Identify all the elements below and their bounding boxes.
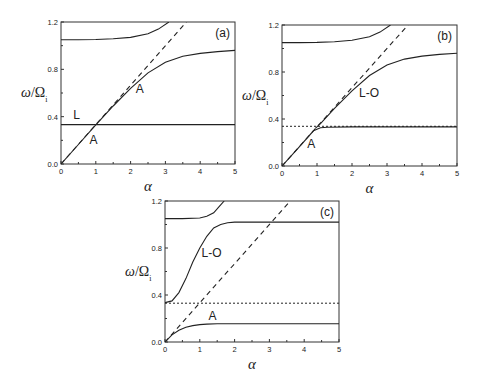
x-tick-label: 1 — [198, 345, 202, 354]
series-l-o — [165, 222, 339, 303]
y-tick-label: 1.2 — [48, 18, 58, 27]
x-axis-label: α — [144, 178, 153, 194]
panel-tag: (a) — [215, 26, 230, 40]
y-axis-label: ω/Ωi — [242, 88, 269, 107]
x-tick-label: 4 — [198, 167, 202, 176]
series-upper-branch — [165, 201, 224, 219]
panel-a: 0123450.00.40.81.2(a)LAAαω/Ωi — [21, 18, 237, 194]
plot-frame — [61, 22, 235, 164]
y-tick-label: 1.2 — [152, 197, 162, 206]
panel-b: 0123450.00.40.81.2(b)L-OAαω/Ωi — [242, 21, 459, 196]
series-l-o — [315, 53, 457, 128]
y-tick-label: 0.8 — [269, 68, 279, 77]
x-tick-label: 1 — [315, 169, 319, 178]
series-light-line — [282, 25, 408, 166]
x-tick-label: 4 — [420, 169, 424, 178]
x-tick-label: 4 — [302, 345, 306, 354]
y-tick-label: 0.8 — [152, 244, 162, 253]
curve-label: A — [209, 309, 217, 323]
y-tick-label: 0.4 — [48, 113, 58, 122]
curve-label: A — [90, 133, 98, 147]
panel-c: 0123450.00.40.81.2(c)L-OAαω/Ωi — [125, 197, 341, 372]
curve-label: A — [136, 82, 144, 96]
y-tick-label: 0.8 — [48, 65, 58, 74]
x-tick-label: 5 — [455, 169, 459, 178]
series-light-line — [61, 22, 186, 164]
series-upper-branch — [282, 25, 391, 43]
series-upper-branch — [61, 22, 169, 40]
y-tick-label: 0.0 — [269, 162, 279, 171]
x-tick-label: 0 — [280, 169, 284, 178]
y-tick-label: 0.0 — [48, 160, 58, 169]
panel-tag: (b) — [437, 29, 452, 43]
x-axis-label: α — [248, 356, 257, 372]
x-tick-label: 5 — [233, 167, 237, 176]
x-tick-label: 0 — [59, 167, 63, 176]
series-a-acoustic- — [61, 50, 235, 164]
x-tick-label: 3 — [267, 345, 271, 354]
y-axis-label: ω/Ωi — [125, 264, 152, 283]
x-tick-label: 3 — [385, 169, 389, 178]
curve-label: L-O — [202, 246, 222, 260]
x-tick-label: 1 — [94, 167, 98, 176]
x-axis-label: α — [366, 180, 375, 196]
curve-label: L-O — [359, 86, 379, 100]
panel-tag: (c) — [320, 205, 334, 219]
x-tick-label: 0 — [163, 345, 167, 354]
x-tick-label: 5 — [337, 345, 341, 354]
x-tick-label: 2 — [129, 167, 133, 176]
y-tick-label: 0.4 — [269, 115, 279, 124]
dispersion-figure: 0123450.00.40.81.2(a)LAAαω/Ωi0123450.00.… — [0, 0, 482, 386]
curve-label: A — [307, 137, 315, 151]
y-tick-label: 0.4 — [152, 291, 162, 300]
series-a — [165, 324, 339, 342]
x-tick-label: 2 — [233, 345, 237, 354]
y-tick-label: 1.2 — [269, 21, 279, 30]
curve-label: L — [73, 108, 80, 122]
y-axis-label: ω/Ωi — [21, 85, 48, 104]
x-tick-label: 3 — [163, 167, 167, 176]
y-tick-label: 0.0 — [152, 338, 162, 347]
x-tick-label: 2 — [350, 169, 354, 178]
